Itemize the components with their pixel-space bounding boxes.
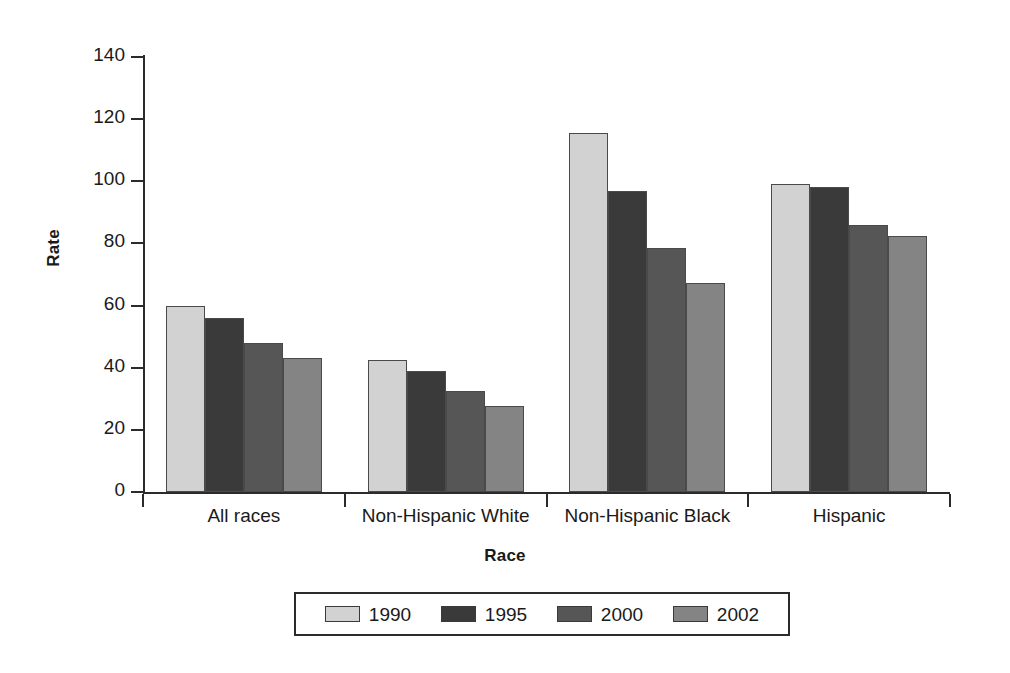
bar — [569, 133, 608, 492]
bar — [810, 187, 849, 492]
bar — [205, 318, 244, 492]
bar — [771, 184, 810, 492]
y-tick-label: 60 — [40, 293, 125, 315]
legend-item[interactable]: 2002 — [673, 605, 759, 624]
bar — [686, 283, 725, 492]
bar — [485, 406, 524, 492]
y-tick-mark — [131, 56, 143, 58]
legend-label: 2000 — [601, 605, 643, 624]
chart-legend: 1990199520002002 — [294, 592, 790, 636]
y-tick-mark — [131, 367, 143, 369]
y-tick-label: 120 — [40, 106, 125, 128]
y-tick-label: 100 — [40, 168, 125, 190]
legend-item[interactable]: 1990 — [325, 605, 411, 624]
legend-swatch — [441, 606, 476, 622]
bar — [407, 371, 446, 492]
y-tick-label: 0 — [40, 479, 125, 501]
bar — [888, 236, 927, 492]
bars-layer — [143, 57, 950, 492]
legend-label: 2002 — [717, 605, 759, 624]
y-tick-label: 20 — [40, 417, 125, 439]
y-tick-mark — [131, 180, 143, 182]
y-tick-label: 140 — [40, 44, 125, 66]
bar — [849, 225, 888, 492]
bar — [647, 248, 686, 492]
bar — [446, 391, 485, 492]
y-tick-mark — [131, 242, 143, 244]
legend-swatch — [673, 606, 708, 622]
bar — [368, 360, 407, 492]
legend-swatch — [325, 606, 360, 622]
legend-item[interactable]: 1995 — [441, 605, 527, 624]
legend-label: 1995 — [485, 605, 527, 624]
legend-item[interactable]: 2000 — [557, 605, 643, 624]
bar — [283, 358, 322, 492]
y-tick-mark — [131, 305, 143, 307]
y-tick-mark — [131, 429, 143, 431]
bar — [244, 343, 283, 492]
legend-label: 1990 — [369, 605, 411, 624]
x-axis-title: Race — [0, 546, 1010, 566]
bar-chart-figure: Rate 020406080100120140 All racesNon-His… — [0, 0, 1010, 673]
bar — [166, 306, 205, 492]
y-tick-mark — [131, 491, 143, 493]
bar — [608, 191, 647, 492]
y-tick-label: 80 — [40, 230, 125, 252]
y-tick-label: 40 — [40, 355, 125, 377]
category-label: Hispanic — [709, 505, 989, 527]
y-tick-mark — [131, 118, 143, 120]
legend-swatch — [557, 606, 592, 622]
